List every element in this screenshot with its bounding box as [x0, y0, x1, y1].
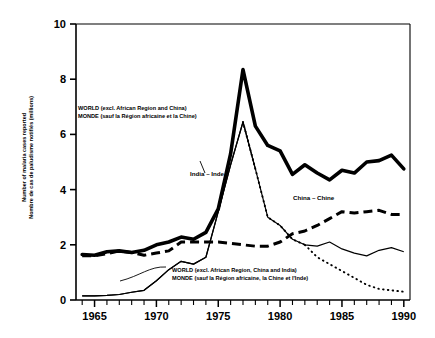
series-label-china: China – Chine	[293, 194, 335, 201]
y-axis-ticks: 0246810	[54, 18, 76, 306]
x-axis-ticks: 196519701975198019851990	[82, 300, 416, 322]
y-tick-label: 0	[60, 294, 66, 306]
x-tick-label: 1965	[82, 310, 106, 322]
y-tick-label: 10	[54, 18, 66, 30]
plot-frame	[76, 24, 410, 300]
series-line-world-excl-africa-china	[82, 70, 404, 256]
x-tick-label: 1980	[268, 310, 292, 322]
series-label-india: India – Inde	[190, 170, 225, 177]
malaria-cases-line-chart: Number of malaria cases reportedNombre d…	[0, 0, 435, 338]
annotation-line-fr: MONDE (sauf la Région africaine, la Chin…	[172, 275, 308, 281]
series-line-india-dotted	[305, 245, 404, 292]
x-tick-label: 1970	[144, 310, 168, 322]
x-tick-label: 1985	[330, 310, 354, 322]
y-tick-label: 6	[60, 128, 66, 140]
chart-canvas: 0246810 196519701975198019851990 WORLD (…	[0, 0, 435, 338]
series-paths	[82, 70, 404, 296]
y-tick-label: 2	[60, 239, 66, 251]
annotation-world-excl-africa-china-india: WORLD (excl. African Region, China and I…	[172, 267, 308, 281]
y-tick-label: 4	[60, 184, 67, 196]
x-tick-label: 1975	[206, 310, 230, 322]
annotation-line-en: WORLD (excl. African Region and China)	[78, 105, 187, 111]
annotation-line-fr: MONDE (sauf la Région africaine et la Ch…	[78, 113, 197, 119]
y-tick-label: 8	[60, 73, 66, 85]
annotation-line-en: WORLD (excl. African Region, China and I…	[172, 267, 297, 273]
x-tick-label: 1990	[392, 310, 416, 322]
annotation-leader-lines	[120, 161, 205, 281]
annotation-world-excl-africa-china: WORLD (excl. African Region and China) M…	[78, 105, 197, 119]
series-line-india-dotted-peak	[243, 122, 305, 245]
series-line-china	[82, 210, 404, 256]
